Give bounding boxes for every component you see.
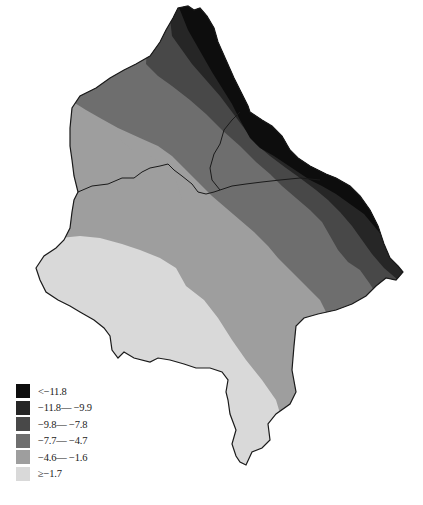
legend-item: −9.8— −7.8 [16,416,92,433]
legend-swatch [16,417,30,431]
legend-label: −7.7— −4.7 [38,435,87,446]
legend-item: −4.6— −1.6 [16,449,92,466]
figure-caption-cropped [0,496,423,505]
legend-swatch [16,450,30,464]
legend-swatch [16,384,30,398]
legend-item: −11.8— −9.9 [16,400,92,417]
legend-swatch [16,434,30,448]
legend-label: −11.8— −9.9 [38,402,92,413]
legend-label: −4.6— −1.6 [38,452,87,463]
legend-item: −7.7— −4.7 [16,433,92,450]
legend-swatch [16,401,30,415]
legend-label: <−11.8 [38,386,67,397]
legend-label: −9.8— −7.8 [38,419,87,430]
legend-label: ≥−1.7 [38,468,62,479]
legend-item: <−11.8 [16,383,92,400]
legend-swatch [16,467,30,481]
map-legend: <−11.8 −11.8— −9.9 −9.8— −7.8 −7.7— −4.7… [16,383,92,482]
legend-item: ≥−1.7 [16,466,92,483]
